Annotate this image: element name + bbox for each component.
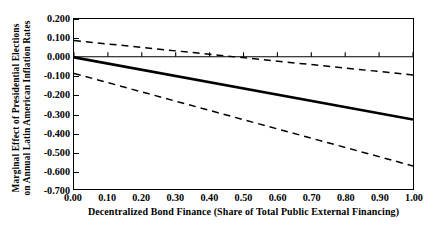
y-axis-tick-mark	[74, 76, 79, 77]
y-axis-tick-label: -0.300	[28, 108, 70, 119]
series-line-1	[74, 57, 413, 119]
y-axis-tick-label: -0.200	[28, 89, 70, 100]
x-axis-tick-label: 0.80	[337, 192, 355, 203]
plot-area	[73, 18, 414, 190]
y-axis-tick-label: -0.500	[28, 146, 70, 157]
y-axis-tick-mark	[74, 95, 79, 96]
y-axis-tick-mark	[74, 172, 79, 173]
x-axis-tick-label: 0.40	[200, 192, 218, 203]
x-axis-tick-label: 0.70	[303, 192, 321, 203]
x-axis-title: Decentralized Bond Finance (Share of Tot…	[73, 206, 414, 217]
x-axis-tick-labels: 0.000.100.200.300.400.500.600.700.800.90…	[73, 192, 414, 206]
x-axis-tick-label: 0.30	[166, 192, 184, 203]
y-axis-tick-label: -0.600	[28, 165, 70, 176]
y-axis-tick-mark	[74, 153, 79, 154]
y-axis-tick-mark	[74, 134, 79, 135]
x-axis-tick-label: 0.10	[98, 192, 116, 203]
y-axis-tick-mark	[74, 19, 79, 20]
plot-svg	[74, 19, 413, 189]
x-axis-tick-label: 1.00	[405, 192, 423, 203]
y-axis-tick-mark	[74, 115, 79, 116]
y-axis-tick-mark	[74, 38, 79, 39]
y-axis-tick-label: 0.000	[28, 51, 70, 62]
y-axis-tick-mark	[74, 57, 79, 58]
y-axis-tick-label: 0.200	[28, 13, 70, 24]
y-axis-tick-label: 0.100	[28, 32, 70, 43]
x-axis-tick-label: 0.20	[132, 192, 150, 203]
x-axis-tick-label: 0.90	[371, 192, 389, 203]
y-axis-title-line-1: Marginal Effect of Presidential Election…	[11, 24, 22, 193]
series-line-2	[74, 41, 413, 75]
y-axis-tick-label: -0.400	[28, 127, 70, 138]
marginal-effect-chart: Marginal Effect of Presidential Election…	[0, 0, 436, 235]
x-axis-tick-label: 0.00	[64, 192, 82, 203]
x-axis-tick-label: 0.50	[235, 192, 253, 203]
y-axis-tick-label: -0.100	[28, 70, 70, 81]
x-axis-tick-label: 0.60	[269, 192, 287, 203]
